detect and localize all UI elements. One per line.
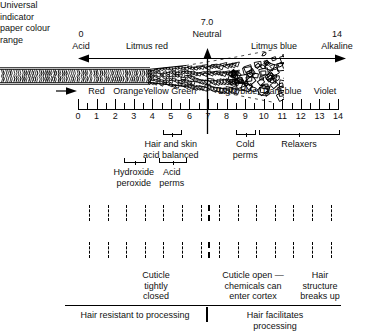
scale-tick-9: [245, 99, 246, 109]
hair-guide-dash-5.6-upper: [182, 205, 183, 221]
hair-guide-dash-5.6-lower: [182, 242, 183, 258]
hair-guide-dash-0.6-lower: [89, 242, 90, 258]
scale-tick-10: [264, 99, 265, 109]
ph-left-label: Acid: [72, 41, 90, 51]
colour-band-label-green: Green: [171, 86, 196, 96]
ph-right-label: Alkaline: [321, 41, 353, 51]
hair-guide-dash-7.6-lower: [219, 242, 220, 258]
bracket-label-line: perms: [233, 150, 258, 161]
hair-guide-dash-6.6-lower: [201, 242, 202, 258]
scale-tick-4.5: [162, 103, 163, 109]
scale-number-1: 1: [94, 111, 99, 121]
bottom-divider-tick: [206, 307, 208, 322]
scale-tick-10.5: [273, 103, 274, 109]
hair-caption-line: breaks up: [300, 291, 340, 302]
hair-guide-dash-3.6-upper: [145, 205, 146, 221]
hair-guide-dash-7-lower: [208, 242, 210, 258]
bracket-stem: [172, 133, 173, 137]
ph-neutral-value: 7.0: [201, 17, 214, 27]
bracket-label-relaxers: Relaxers: [281, 139, 317, 150]
bracket-label-line: Acid: [159, 167, 184, 178]
universal-indicator-arrow-icon: [56, 87, 77, 95]
hair-caption-hair-structure-breaks-up: Hairstructurebreaks up: [300, 270, 340, 302]
bracket-stem: [173, 161, 174, 165]
hair-guide-dash-12.6-lower: [312, 242, 313, 258]
litmus-blue-label: Litmus blue: [251, 41, 297, 51]
hair-caption-cuticle-open: Cuticle open —chemicals canenter cortex: [222, 270, 284, 302]
scale-number-11: 11: [278, 111, 287, 121]
hair-guide-dash-13.6-upper: [331, 205, 332, 221]
scale-number-12: 12: [296, 111, 306, 121]
hair-caption-line: chemicals can: [222, 281, 284, 292]
scale-tick-7: [208, 99, 209, 109]
scale-tick-4: [152, 99, 153, 109]
ph-axis-double-arrow: [78, 54, 346, 63]
scale-number-4: 4: [150, 111, 155, 121]
bracket-hair-and-skin: [163, 130, 183, 135]
colour-band-label-red: Red: [88, 86, 105, 96]
scale-number-0: 0: [75, 111, 80, 121]
universal-line-2: indicator: [0, 12, 367, 24]
hair-guide-dash-4.6-upper: [163, 205, 164, 221]
scale-tick-12.5: [310, 103, 311, 109]
bracket-label-acid-perms: Acidperms: [159, 167, 184, 188]
colour-band-label-orange: Orange: [113, 86, 143, 96]
scale-tick-8: [227, 99, 228, 109]
bottom-label-hair-facilitates: Hair facilitates processing: [229, 310, 321, 331]
bracket-label-line: peroxide: [113, 178, 154, 189]
scale-number-13: 13: [314, 111, 324, 121]
hair-guide-dash-13.6-lower: [331, 242, 332, 258]
hair-guide-dash-11.6-upper: [293, 205, 294, 221]
colour-band-label-violet: Violet: [314, 86, 336, 96]
colour-band-label-light-blue: Light blue: [218, 86, 257, 96]
bracket-label-line: perms: [159, 178, 184, 189]
scale-number-9: 9: [243, 111, 248, 121]
scale-tick-9.5: [254, 103, 255, 109]
hair-guide-dash-7-upper: [208, 205, 210, 221]
ph-neutral-up-arrow: [203, 48, 212, 134]
hair-caption-line: closed: [142, 291, 170, 302]
scale-tick-6.5: [199, 103, 200, 109]
hair-guide-dash-2.6-lower: [126, 242, 127, 258]
bracket-label-line: Cold: [233, 139, 258, 150]
hair-caption-line: tightly: [142, 281, 170, 292]
bracket-label-hydroxide-peroxide: Hydroxideperoxide: [113, 167, 154, 188]
ph-neutral-label: Neutral: [192, 29, 221, 39]
scale-number-10: 10: [259, 111, 269, 121]
scale-tick-2: [115, 99, 116, 109]
scale-tick-3.5: [143, 103, 144, 109]
hair-guide-dash-2.6-upper: [126, 205, 127, 221]
ph-right-value: 14: [332, 29, 342, 39]
scale-tick-13.5: [329, 103, 330, 109]
scale-tick-1: [97, 99, 98, 109]
bracket-stem: [299, 133, 300, 137]
bracket-cold-perms: [236, 130, 257, 135]
bracket-label-line: Relaxers: [281, 139, 317, 150]
hair-caption-line: structure: [300, 281, 340, 292]
hair-caption-line: Cuticle open —: [222, 270, 284, 281]
hair-guide-dash-7.6-upper: [219, 205, 220, 221]
scale-baseline: [78, 109, 339, 110]
bracket-label-cold-perms: Coldperms: [233, 139, 258, 160]
hair-guide-dash-1.6-upper: [108, 205, 109, 221]
bracket-relaxers: [259, 130, 340, 135]
hair-caption-line: Cuticle: [142, 270, 170, 281]
hair-guide-dash-3.6-lower: [145, 242, 146, 258]
scale-tick-8.5: [236, 103, 237, 109]
hair-guide-dash-6.6-upper: [201, 205, 202, 221]
scale-tick-11.5: [292, 103, 293, 109]
scale-tick-11: [282, 99, 283, 109]
scale-tick-12: [301, 99, 302, 109]
scale-tick-5: [171, 99, 172, 109]
bottom-label-hair-resistant: Hair resistant to processing: [80, 310, 189, 321]
litmus-red-label: Litmus red: [126, 41, 168, 51]
scale-tick-13: [319, 99, 320, 109]
scale-number-7: 7: [205, 111, 210, 121]
scale-number-3: 3: [131, 111, 136, 121]
hair-guide-dash-9.6-lower: [256, 242, 257, 258]
hair-guide-dash-10.6-lower: [275, 242, 276, 258]
hair-caption-line: Hair: [300, 270, 340, 281]
bottom-rule: [65, 305, 341, 306]
scale-number-2: 2: [113, 111, 118, 121]
scale-right-cap: [338, 99, 339, 110]
